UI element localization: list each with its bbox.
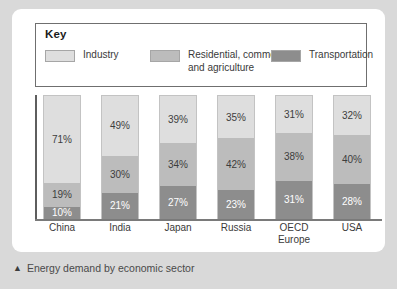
legend-title: Key xyxy=(45,28,66,40)
bar-segment: 34% xyxy=(159,143,197,185)
legend-swatch-industry xyxy=(45,50,75,62)
legend-swatch-residential xyxy=(150,50,180,62)
bar-oecd-europe: 31%38%31% xyxy=(275,95,313,219)
x-tick-label: OECD Europe xyxy=(275,222,313,246)
bar-group: 71%19%10%49%30%21%39%34%27%35%42%23%31%3… xyxy=(43,95,379,219)
bar-segment-value: 30% xyxy=(110,169,130,180)
x-tick-label: India xyxy=(101,222,139,246)
chart-card: Key Industry Residential, commercial and… xyxy=(12,9,385,252)
legend-swatch-transportation xyxy=(271,50,301,62)
bar-china: 71%19%10% xyxy=(43,95,81,219)
caption-text: Energy demand by economic sector xyxy=(27,262,195,274)
bar-segment: 19% xyxy=(43,183,81,207)
bar-segment: 40% xyxy=(333,135,371,185)
plot-area: 71%19%10%49%30%21%39%34%27%35%42%23%31%3… xyxy=(35,95,375,219)
bar-segment-value: 49% xyxy=(110,120,130,131)
bar-segment: 31% xyxy=(275,95,313,133)
bar-segment: 35% xyxy=(217,95,255,138)
bar-segment-value: 35% xyxy=(226,112,246,123)
bar-segment: 28% xyxy=(333,184,371,219)
bar-segment: 39% xyxy=(159,95,197,143)
bar-india: 49%30%21% xyxy=(101,95,139,219)
x-tick-label: China xyxy=(43,222,81,246)
bar-segment: 71% xyxy=(43,95,81,183)
bar-segment-value: 19% xyxy=(52,189,72,200)
triangle-icon: ▲ xyxy=(13,264,22,273)
bar-usa: 32%40%28% xyxy=(333,95,371,219)
y-axis-line xyxy=(35,95,37,219)
legend-label-industry: Industry xyxy=(83,49,119,62)
bar-russia: 35%42%23% xyxy=(217,95,255,219)
figure-caption: ▲ Energy demand by economic sector xyxy=(13,262,194,274)
bar-segment-value: 39% xyxy=(168,114,188,125)
bar-segment: 21% xyxy=(101,193,139,219)
bar-segment: 38% xyxy=(275,133,313,180)
x-axis-line xyxy=(35,219,382,221)
x-axis-tick-labels: ChinaIndiaJapanRussiaOECD EuropeUSA xyxy=(43,222,379,246)
bar-segment: 42% xyxy=(217,138,255,190)
bar-segment-value: 21% xyxy=(110,200,130,211)
bar-segment-value: 27% xyxy=(168,197,188,208)
bar-segment-value: 31% xyxy=(284,194,304,205)
bar-segment-value: 23% xyxy=(226,199,246,210)
x-tick-label: Russia xyxy=(217,222,255,246)
bar-segment-value: 32% xyxy=(342,110,362,121)
legend-item-transportation: Transportation xyxy=(271,49,373,62)
x-tick-label: Japan xyxy=(159,222,197,246)
chart-legend: Key Industry Residential, commercial and… xyxy=(35,23,367,87)
bar-segment-value: 40% xyxy=(342,154,362,165)
bar-segment-value: 38% xyxy=(284,151,304,162)
bar-segment: 31% xyxy=(275,181,313,219)
bar-segment: 32% xyxy=(333,95,371,135)
bar-segment-value: 42% xyxy=(226,159,246,170)
bar-japan: 39%34%27% xyxy=(159,95,197,219)
bar-segment-value: 34% xyxy=(168,159,188,170)
bar-segment: 23% xyxy=(217,190,255,219)
x-tick-label: USA xyxy=(333,222,371,246)
bar-segment-value: 31% xyxy=(284,109,304,120)
bar-segment: 49% xyxy=(101,95,139,156)
figure-container: Key Industry Residential, commercial and… xyxy=(0,0,397,289)
bar-segment-value: 71% xyxy=(52,134,72,145)
legend-item-industry: Industry xyxy=(45,49,119,62)
legend-label-transportation: Transportation xyxy=(309,49,373,62)
bar-segment: 30% xyxy=(101,156,139,193)
bar-segment-value: 28% xyxy=(342,196,362,207)
bar-segment: 27% xyxy=(159,186,197,219)
bar-segment: 10% xyxy=(43,207,81,219)
bar-segment-value: 10% xyxy=(52,207,72,218)
